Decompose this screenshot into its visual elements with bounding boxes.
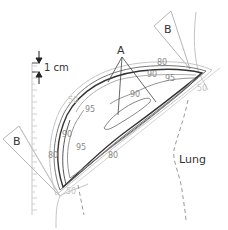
lung-label: Lung [179,153,206,166]
iso-label-90-left: 90 [62,130,72,139]
iso-label-95-right: 95 [165,74,175,83]
scale-ruler [32,63,37,215]
hotspot-label: A [117,44,125,57]
iso-label-80-top: 80 [157,58,167,67]
iso-label-80-bottom: 80 [108,151,118,160]
iso-label-90-inner: 90 [130,90,140,99]
iso-label-80-left: 80 [48,151,58,160]
iso-label-95-top: 95 [85,105,95,114]
iso-label-90-top: 90 [147,70,157,79]
beam-medial-label: B [13,135,21,148]
iso-label-50-bottom: 50 [66,187,76,196]
lung-contour-lower [78,185,84,215]
iso-label-95-left: 95 [76,143,86,152]
beam-lateral-label: B [164,23,172,36]
iso-label-50-right: 50 [197,84,207,93]
isodose-diagram: 1 cm B B A 50 95 80 90 9 [0,0,228,230]
beam-edges [19,68,220,196]
scale-label: 1 cm [44,62,69,73]
iso-label-50-top: 50 [68,96,78,105]
scale-arrows [32,51,42,84]
body-contour [56,12,208,228]
